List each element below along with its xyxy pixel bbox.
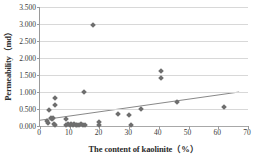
- y-axis-tick-labels: 0.0000.5001.0001.5002.0002.5003.0003.500: [12, 0, 38, 127]
- x-axis-tick-labels: 010203040506070: [39, 128, 248, 140]
- y-tick-label: 0.500: [19, 105, 36, 114]
- x-tick-label: 40: [154, 128, 162, 137]
- gridline: [40, 7, 248, 8]
- y-tick-mark: [37, 58, 40, 59]
- gridline: [40, 109, 248, 110]
- y-tick-mark: [37, 24, 40, 25]
- y-tick-label: 3.500: [19, 3, 36, 12]
- gridline: [40, 75, 248, 76]
- x-axis-title: The content of kaolinite（%）: [39, 142, 248, 154]
- y-tick-label: 1.500: [19, 71, 36, 80]
- gridline: [40, 24, 248, 25]
- y-tick-label: 1.000: [19, 88, 36, 97]
- x-tick-label: 50: [184, 128, 192, 137]
- y-tick-mark: [37, 7, 40, 8]
- y-tick-label: 0.000: [19, 122, 36, 131]
- gridline: [40, 41, 248, 42]
- x-tick-label: 20: [95, 128, 103, 137]
- x-tick-label: 60: [214, 128, 222, 137]
- y-tick-label: 2.500: [19, 37, 36, 46]
- gridline: [40, 92, 248, 93]
- scatter-chart: Permeability（md） 0.0000.5001.0001.5002.0…: [0, 0, 256, 159]
- gridline: [40, 58, 248, 59]
- y-tick-mark: [37, 92, 40, 93]
- x-tick-label: 0: [37, 128, 41, 137]
- y-tick-label: 3.000: [19, 20, 36, 29]
- y-tick-label: 2.000: [19, 54, 36, 63]
- y-tick-mark: [37, 41, 40, 42]
- y-tick-mark: [37, 109, 40, 110]
- y-tick-mark: [37, 75, 40, 76]
- x-tick-label: 70: [243, 128, 251, 137]
- plot-area: [39, 7, 248, 126]
- x-tick-label: 30: [124, 128, 132, 137]
- x-tick-label: 10: [65, 128, 73, 137]
